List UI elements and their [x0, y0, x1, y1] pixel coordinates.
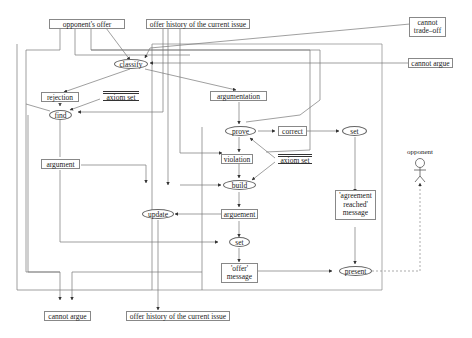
agreement-line3: message — [343, 209, 368, 218]
connector-lines — [0, 0, 472, 338]
process-classify: classify — [114, 59, 148, 69]
input-offer-history: offer history of the current issue — [146, 19, 250, 29]
process-find: find — [49, 110, 72, 120]
process-update: update — [142, 209, 174, 219]
store-axiom-set-left: axiom set — [103, 93, 139, 101]
input-cannot-argue: cannot argue — [408, 58, 453, 68]
data-correct: correct — [278, 126, 307, 136]
cannot-tradeoff-line2: trade–off — [414, 27, 441, 36]
data-violation: violation — [221, 154, 253, 164]
data-offer-message: 'offer' message — [221, 263, 258, 283]
store-axiom-set-right: axiom set — [278, 156, 312, 164]
process-prove: prove — [225, 126, 256, 136]
output-offer-history: offer history of the current issue — [126, 311, 230, 321]
data-argument: argument — [41, 159, 80, 169]
input-opponents-offer: opponent's offer — [49, 19, 125, 29]
process-build: build — [223, 180, 256, 190]
data-argumentation: argumentation — [210, 91, 267, 101]
offer-msg-line2: message — [227, 273, 252, 282]
process-set-bottom: set — [229, 237, 250, 247]
output-cannot-argue: cannot argue — [44, 311, 91, 321]
opponent-actor-icon — [414, 159, 426, 183]
data-rejection: rejection — [41, 92, 79, 102]
process-set-right: set — [342, 126, 367, 136]
actor-label-opponent: opponent — [402, 148, 438, 156]
data-arguement: arguement — [221, 209, 258, 219]
process-present: present — [339, 266, 372, 276]
input-cannot-tradeoff: cannot trade–off — [409, 17, 446, 37]
data-agreement-message: 'agreement reached' message — [335, 190, 376, 220]
